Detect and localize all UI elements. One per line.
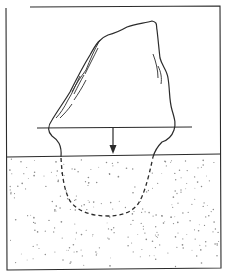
diagram-canvas [0, 0, 226, 274]
substrate-stipple [9, 159, 219, 268]
rock-outline [49, 21, 175, 157]
reference-line [37, 127, 192, 128]
rock-hatching-left [56, 40, 100, 118]
sinking-rock-illustration [0, 0, 226, 274]
buried-outline-dashed [61, 157, 153, 216]
ground-line [7, 154, 221, 157]
down-arrow-icon [110, 128, 117, 154]
